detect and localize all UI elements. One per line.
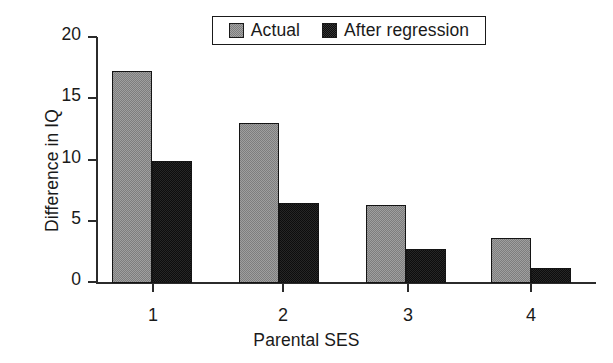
y-tick-label-0: 0 — [71, 271, 81, 289]
bar-regression-1 — [152, 161, 192, 284]
legend-swatch-after-regression-icon — [322, 23, 337, 38]
legend-label-actual: Actual — [251, 22, 300, 40]
x-tick-label-2: 2 — [278, 306, 288, 324]
y-tick-label-5: 5 — [71, 210, 81, 228]
x-tick-4: 4 — [530, 283, 532, 292]
bar-actual-2 — [239, 123, 279, 283]
legend-swatch-actual-icon — [229, 23, 244, 38]
y-tick-15: 15 — [88, 97, 97, 99]
x-tick-3: 3 — [407, 283, 409, 292]
x-tick-label-4: 4 — [526, 306, 536, 324]
legend-label-after-regression: After regression — [344, 22, 469, 40]
x-tick-label-3: 3 — [403, 306, 413, 324]
y-tick-10: 10 — [88, 159, 97, 161]
bar-actual-4 — [491, 238, 531, 283]
y-tick-0: 0 — [88, 281, 97, 283]
y-tick-5: 5 — [88, 220, 97, 222]
bar-regression-4 — [531, 268, 571, 283]
bar-chart-figure: Actual After regression Difference in IQ… — [0, 0, 613, 363]
x-axis-title: Parental SES — [0, 330, 613, 351]
x-tick-label-1: 1 — [148, 306, 158, 324]
legend-entry-actual: Actual — [229, 22, 300, 40]
y-tick-label-10: 10 — [62, 149, 81, 167]
x-tick-2: 2 — [282, 283, 284, 292]
y-tick-20: 20 — [88, 36, 97, 38]
y-axis-title: Difference in IQ — [42, 51, 63, 291]
bar-actual-3 — [366, 205, 406, 283]
bar-regression-3 — [406, 249, 446, 283]
plot-area: 0 5 10 15 20 1 2 3 4 — [96, 38, 596, 283]
legend-entry-after-regression: After regression — [322, 22, 469, 40]
y-tick-label-20: 20 — [62, 26, 81, 44]
y-tick-label-15: 15 — [62, 87, 81, 105]
bar-actual-1 — [112, 71, 152, 283]
x-tick-1: 1 — [152, 283, 154, 292]
bar-regression-2 — [279, 203, 319, 283]
